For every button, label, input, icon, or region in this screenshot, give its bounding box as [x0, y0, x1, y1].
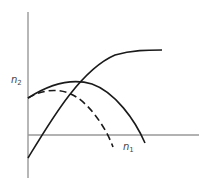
y-axis-label: n2 — [11, 75, 22, 87]
y-axis-label-sub: 2 — [17, 79, 21, 87]
diagram: n2 n1 — [0, 0, 208, 185]
diagram-canvas — [0, 0, 208, 185]
hump-curve — [28, 82, 145, 143]
x-axis-label: n1 — [123, 142, 134, 154]
x-axis-label-sub: 1 — [129, 146, 133, 154]
rising-saturating-curve — [28, 50, 162, 158]
